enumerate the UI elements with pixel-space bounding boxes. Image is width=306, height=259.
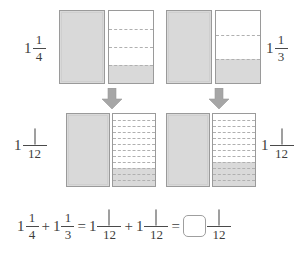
- equation-term4-whole: 1: [136, 219, 145, 234]
- part-divider: [113, 138, 155, 139]
- part-divider: [216, 59, 260, 60]
- numerator: 1: [63, 211, 74, 225]
- part-divider: [213, 150, 255, 151]
- fraction-box-over-twelve: 12: [270, 130, 294, 160]
- equation-term1-whole: 1: [17, 219, 26, 234]
- equation-term1-fraction: 1 4: [26, 211, 39, 241]
- fraction-one-third: 1 3: [275, 33, 288, 63]
- part-divider: [213, 132, 255, 133]
- part-divider: [213, 138, 255, 139]
- equation-term4-fraction: 12: [144, 211, 168, 241]
- denominator: 3: [276, 50, 287, 64]
- denominator: 3: [63, 228, 74, 242]
- equation-term2-fraction: 1 3: [61, 211, 74, 241]
- down-arrow-left-icon: [101, 88, 123, 110]
- part-divider: [213, 120, 255, 121]
- part-divider: [113, 174, 155, 175]
- part-divider: [213, 180, 255, 181]
- equation-answer-fraction: 12: [207, 211, 231, 241]
- denominator: 12: [101, 228, 118, 242]
- equation-term3-fraction: 12: [97, 211, 121, 241]
- part-divider: [113, 144, 155, 145]
- part-divider: [113, 132, 155, 133]
- bar-model-fourths: [108, 10, 154, 84]
- down-arrow-right-icon: [208, 88, 230, 110]
- whole-number: 1: [14, 138, 23, 153]
- bar-inner-edge: [168, 115, 208, 185]
- numerator-answer-slot: [34, 130, 36, 144]
- part-divider: [213, 126, 255, 127]
- part-divider: [113, 120, 155, 121]
- numerator-answer-slot: [218, 211, 220, 225]
- part-divider: [113, 150, 155, 151]
- shaded-region: [216, 59, 260, 83]
- whole-number: 1: [261, 138, 270, 153]
- numerator-answer-slot: [281, 130, 283, 144]
- part-divider: [113, 162, 155, 163]
- part-divider: [113, 126, 155, 127]
- numerator: 1: [27, 211, 38, 225]
- part-divider: [213, 144, 255, 145]
- bar-inner-edge: [61, 12, 103, 82]
- equals-operator-2: =: [168, 219, 182, 234]
- answer-box[interactable]: [108, 209, 110, 226]
- denominator: 12: [148, 228, 165, 242]
- label-one-and-box-twelfths-left: 1 12: [14, 130, 47, 160]
- numerator: 1: [276, 33, 287, 47]
- bar-model-whole-3: [66, 113, 110, 187]
- bar-model-twelfths-four-shaded: [212, 113, 256, 187]
- denominator: 4: [34, 50, 45, 64]
- bar-model-thirds: [215, 10, 261, 84]
- fraction-one-fourth: 1 4: [33, 33, 46, 63]
- equation-term2-whole: 1: [53, 219, 62, 234]
- answer-box[interactable]: [155, 209, 157, 226]
- denominator: 4: [27, 228, 38, 242]
- answer-box[interactable]: [281, 128, 283, 145]
- plus-operator-1: +: [39, 219, 53, 234]
- bar-inner-edge: [68, 115, 108, 185]
- part-divider: [213, 156, 255, 157]
- label-one-and-box-twelfths-right: 1 12: [261, 130, 294, 160]
- label-one-and-one-fourth: 1 1 4: [24, 33, 46, 63]
- bar-model-twelfths-three-shaded: [112, 113, 156, 187]
- part-divider: [213, 174, 255, 175]
- part-divider: [213, 162, 255, 163]
- equation-row: 1 1 4 + 1 1 3 = 1 12 + 1: [17, 211, 231, 241]
- whole-number: 1: [266, 41, 275, 56]
- answer-box[interactable]: [218, 209, 220, 226]
- denominator: 12: [273, 147, 290, 161]
- numerator: 1: [34, 33, 45, 47]
- part-divider: [109, 47, 153, 48]
- shaded-region: [113, 168, 155, 186]
- plus-operator-2: +: [121, 219, 135, 234]
- whole-number: 1: [24, 41, 33, 56]
- numerator-answer-slot: [108, 211, 110, 225]
- bar-model-whole-4: [166, 113, 210, 187]
- part-divider: [216, 35, 260, 36]
- part-divider: [213, 168, 255, 169]
- bar-model-whole-2: [166, 10, 212, 84]
- answer-whole-box[interactable]: [183, 215, 206, 237]
- part-divider: [113, 168, 155, 169]
- equals-operator-1: =: [74, 219, 88, 234]
- part-divider: [113, 180, 155, 181]
- bar-model-whole-1: [59, 10, 105, 84]
- label-one-and-one-third: 1 1 3: [266, 33, 288, 63]
- numerator-answer-slot: [155, 211, 157, 225]
- part-divider: [109, 65, 153, 66]
- shaded-region: [109, 65, 153, 83]
- fraction-box-over-twelve: 12: [23, 130, 47, 160]
- equation-term3-whole: 1: [89, 219, 98, 234]
- worksheet-canvas: 1 1 4 1 1 3: [0, 0, 306, 259]
- bar-inner-edge: [168, 12, 210, 82]
- answer-box[interactable]: [34, 128, 36, 145]
- part-divider: [113, 156, 155, 157]
- part-divider: [109, 29, 153, 30]
- denominator: 12: [26, 147, 43, 161]
- denominator: 12: [210, 228, 227, 242]
